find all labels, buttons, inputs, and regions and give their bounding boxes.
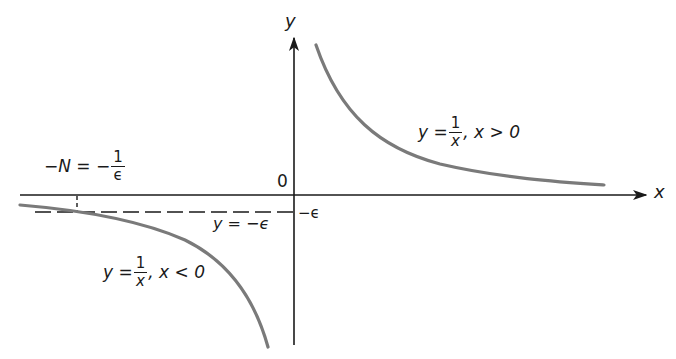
left-branch-fraction: 1 x (134, 256, 148, 289)
x-axis-label: x (654, 183, 665, 201)
right-branch-label: y = 1 x , x > 0 (418, 116, 520, 149)
right-branch-lhs: y = (418, 124, 448, 141)
right-branch-num: 1 (449, 116, 463, 133)
left-branch-den: x (136, 273, 145, 289)
neg-N-label-lhs: −N = − (44, 158, 110, 175)
curve-right-branch (316, 45, 604, 185)
neg-N-fraction-num: 1 (111, 150, 125, 167)
right-branch-den: x (451, 133, 460, 149)
left-branch-cond: , x < 0 (148, 264, 205, 281)
left-branch-lhs: y = (103, 264, 133, 281)
left-branch-label: y = 1 x , x < 0 (103, 256, 205, 289)
right-branch-fraction: 1 x (449, 116, 463, 149)
neg-N-fraction: 1 ϵ (111, 150, 125, 183)
left-branch-num: 1 (134, 256, 148, 273)
origin-label: 0 (277, 173, 288, 190)
neg-N-label: −N = − 1 ϵ (44, 150, 126, 183)
y-axis-label: y (285, 12, 296, 30)
neg-N-fraction-den: ϵ (113, 167, 122, 183)
neg-epsilon-tick-label: −ϵ (298, 206, 320, 221)
right-branch-cond: , x > 0 (463, 124, 520, 141)
dashed-line-label: y = −ϵ (213, 216, 269, 232)
